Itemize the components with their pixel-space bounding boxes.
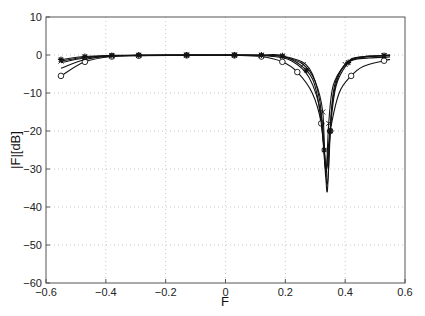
series-line-curve-star: [61, 54, 390, 192]
circle-marker: [58, 73, 64, 79]
x-tick-label: −0.2: [155, 286, 177, 298]
series-line-curve-circle: [61, 55, 390, 169]
y-axis-label: |F|[dB]: [8, 131, 23, 169]
x-tick-label: 0.6: [397, 286, 412, 298]
x-tick-label: 0.4: [338, 286, 353, 298]
y-tick-label: −10: [23, 87, 42, 99]
circle-marker: [381, 58, 387, 64]
y-tick-label: −40: [23, 201, 42, 213]
y-tick-label: −30: [23, 163, 42, 175]
circle-marker: [280, 59, 286, 65]
x-tick-label: 0.2: [278, 286, 293, 298]
y-tick-label: 0: [36, 49, 42, 61]
circle-marker: [295, 69, 301, 75]
data-series: [58, 52, 390, 192]
chart-figure: −0.6−0.4−0.200.20.40.6 100−10−20−30−40−5…: [0, 0, 425, 316]
y-tick-label: 10: [30, 11, 42, 23]
y-tick-label: −20: [23, 125, 42, 137]
circle-marker: [348, 73, 354, 79]
x-axis-label: F: [221, 294, 229, 309]
x-tick-label: −0.4: [95, 286, 117, 298]
y-tick-label: −60: [23, 277, 42, 289]
y-tick-label: −50: [23, 239, 42, 251]
